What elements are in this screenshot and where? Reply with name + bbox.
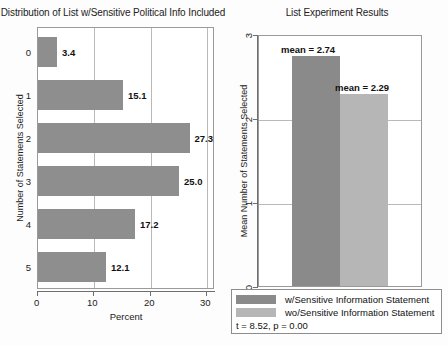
ytick-label-3: 3: [243, 29, 254, 43]
bar-3: [38, 166, 179, 196]
legend-swatch-with-sensitive: [236, 295, 276, 304]
y-tick-1: 1: [26, 90, 31, 101]
y-tick-3: 3: [26, 176, 31, 187]
bar-value-0: 3.4: [62, 47, 75, 58]
right-y-axis-label: Mean Number of Statements Selected: [239, 85, 249, 238]
xtick-mark-10: [93, 292, 94, 296]
left-x-axis-line: [37, 291, 215, 292]
left-chart-panel: Distribution of List w/Sensitive Politic…: [0, 0, 226, 345]
bar-5: [38, 252, 106, 282]
y-tick-5: 5: [26, 262, 31, 273]
bar-row-5: 5 12.1: [38, 252, 213, 282]
bar-2: [38, 123, 190, 153]
bar-1: [38, 80, 123, 110]
legend-swatch-without-sensitive: [236, 308, 276, 317]
ytick-label-1: 1: [243, 197, 254, 211]
ytick-mark-1: [253, 203, 257, 204]
bar-4: [38, 209, 135, 239]
xtick-label-20: 20: [144, 297, 155, 308]
xtick-label-0: 0: [34, 297, 39, 308]
bar-value-5: 12.1: [111, 262, 130, 273]
legend-row-with-sensitive: w/Sensitive Information Statement: [236, 293, 437, 305]
right-plot-area: mean = 2.74 mean = 2.29: [258, 35, 422, 287]
bar-label-with-sensitive: mean = 2.74: [281, 44, 335, 55]
right-chart-title: List Experiment Results: [226, 7, 448, 18]
xtick-mark-0: [37, 292, 38, 296]
bar-with-sensitive: [292, 56, 340, 286]
bar-row-0: 0 3.4: [38, 37, 213, 67]
gridline-30: [207, 28, 208, 288]
gridline-10: [94, 28, 95, 288]
bar-label-without-sensitive: mean = 2.29: [335, 82, 389, 93]
legend: w/Sensitive Information Statement wo/Sen…: [231, 289, 442, 334]
right-y-axis-line: [257, 35, 258, 288]
xtick-mark-20: [150, 292, 151, 296]
left-plot-area: 0 3.4 1 15.1 2 27.3 3 25.0 4: [37, 27, 214, 289]
left-chart-title: Distribution of List w/Sensitive Politic…: [0, 7, 226, 18]
y-tick-2: 2: [26, 133, 31, 144]
bar-value-2: 27.3: [195, 133, 214, 144]
y-tick-0: 0: [26, 47, 31, 58]
bar-row-3: 3 25.0: [38, 166, 213, 196]
bar-without-sensitive: [340, 94, 388, 286]
left-x-axis-label: Percent: [37, 311, 215, 322]
xtick-label-10: 10: [87, 297, 98, 308]
left-y-axis-label: Number of Statements Selected: [15, 94, 25, 222]
bar-value-1: 15.1: [128, 90, 147, 101]
ytick-mark-0: [253, 287, 257, 288]
legend-label-with-sensitive: w/Sensitive Information Statement: [285, 294, 429, 305]
bar-0: [38, 37, 57, 67]
bar-value-4: 17.2: [140, 219, 159, 230]
bar-row-2: 2 27.3: [38, 123, 213, 153]
bar-value-3: 25.0: [184, 176, 203, 187]
legend-row-without-sensitive: wo/Sensitive Information Statement: [236, 306, 437, 318]
ytick-label-2: 2: [243, 113, 254, 127]
legend-statistic: t = 8.52, p = 0.00: [236, 320, 437, 331]
ytick-mark-2: [253, 119, 257, 120]
figure-container: Distribution of List w/Sensitive Politic…: [0, 0, 448, 345]
ytick-mark-3: [253, 35, 257, 36]
y-tick-4: 4: [26, 219, 31, 230]
bar-row-1: 1 15.1: [38, 80, 213, 110]
xtick-mark-30: [206, 292, 207, 296]
legend-label-without-sensitive: wo/Sensitive Information Statement: [285, 307, 434, 318]
gridline-20: [151, 28, 152, 288]
xtick-label-30: 30: [200, 297, 211, 308]
bar-row-4: 4 17.2: [38, 209, 213, 239]
